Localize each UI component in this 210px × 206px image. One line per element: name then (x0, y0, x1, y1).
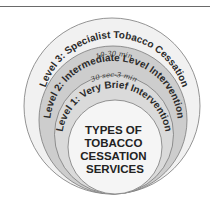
diagram-canvas: Level 3: Specialist Tobacco Cessation 10… (0, 0, 210, 206)
center-title: TYPES OF TOBACCO CESSATION SERVICES (80, 124, 149, 175)
